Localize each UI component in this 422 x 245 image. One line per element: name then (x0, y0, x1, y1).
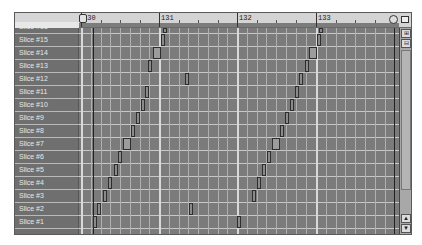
region-3a[interactable] (103, 190, 107, 202)
right-locator-icon[interactable] (389, 15, 398, 24)
region-5b[interactable] (262, 164, 266, 176)
region-2b[interactable] (189, 203, 193, 215)
region-8b[interactable] (280, 125, 284, 137)
scroll-down-button[interactable]: ▼ (401, 224, 411, 233)
track-label-10[interactable]: Slice #10 (15, 99, 79, 112)
track-label-5[interactable]: Slice #5 (15, 164, 79, 177)
track-label-3[interactable]: Slice #3 (15, 190, 79, 203)
region-1a[interactable] (93, 216, 97, 228)
ruler-label-133: 133 (318, 14, 331, 22)
track-label-13[interactable]: Slice #13 (15, 60, 79, 73)
region-7b[interactable] (272, 138, 280, 150)
region-5a[interactable] (114, 164, 118, 176)
region-9a[interactable] (136, 112, 140, 124)
region-12a[interactable] (185, 73, 189, 85)
region-7a[interactable] (123, 138, 131, 150)
scroll-up-button[interactable]: ▲ (401, 214, 411, 223)
ruler-label-132: 132 (239, 14, 252, 22)
track-label-14[interactable]: Slice #14 (15, 47, 79, 60)
track-label-16[interactable]: Slice #16 (15, 21, 79, 34)
arrange-grid[interactable] (79, 28, 399, 234)
region-14a[interactable] (153, 47, 161, 59)
window-toggle-icon (401, 16, 409, 23)
region-12b[interactable] (299, 73, 303, 85)
region-8a[interactable] (131, 125, 135, 137)
track-label-12[interactable]: Slice #12 (15, 73, 79, 86)
vertical-scrollbar[interactable]: ⊞ ⊟ ▲ ▼ (399, 28, 412, 234)
cycle-strip[interactable] (79, 23, 399, 27)
region-6b[interactable] (267, 151, 271, 163)
region-6a[interactable] (118, 151, 122, 163)
track-list: Slice #16 Slice #15 Slice #14 Slice #13 … (15, 28, 79, 234)
right-locator-line (394, 28, 395, 234)
region-15a[interactable] (161, 34, 165, 46)
region-16a[interactable] (163, 28, 167, 33)
track-label-4[interactable]: Slice #4 (15, 177, 79, 190)
region-11a[interactable] (145, 86, 149, 98)
region-15b[interactable] (317, 34, 321, 46)
scrollbar-thumb[interactable] (401, 50, 411, 190)
track-label-7[interactable]: Slice #7 (15, 138, 79, 151)
region-14b[interactable] (309, 47, 317, 59)
timeline-ruler[interactable]: 130 131 132 133 (79, 13, 399, 28)
zoom-in-icon[interactable]: ⊞ (401, 29, 411, 38)
left-locator-icon[interactable] (79, 14, 87, 23)
region-4b[interactable] (257, 177, 261, 189)
zoom-out-icon[interactable]: ⊟ (401, 39, 411, 48)
region-1b[interactable] (237, 216, 241, 228)
region-16b[interactable] (319, 28, 323, 33)
region-13a[interactable] (148, 60, 152, 72)
track-label-11[interactable]: Slice #11 (15, 86, 79, 99)
region-13b[interactable] (305, 60, 309, 72)
window-resize-button[interactable] (399, 13, 412, 28)
region-2a[interactable] (97, 203, 101, 215)
track-label-8[interactable]: Slice #8 (15, 125, 79, 138)
region-9b[interactable] (285, 112, 289, 124)
region-10b[interactable] (290, 99, 294, 111)
arrange-window: 130 131 132 133 Slice #16 Slice #15 Slic… (14, 12, 412, 235)
region-3b[interactable] (252, 190, 256, 202)
ruler-label-131: 131 (161, 14, 174, 22)
track-label-1[interactable]: Slice #1 (15, 216, 79, 229)
region-10a[interactable] (141, 99, 145, 111)
track-label-6[interactable]: Slice #6 (15, 151, 79, 164)
region-11b[interactable] (295, 86, 299, 98)
track-label-2[interactable]: Slice #2 (15, 203, 79, 216)
region-4a[interactable] (108, 177, 112, 189)
playhead-cursor[interactable] (93, 28, 94, 234)
track-label-15[interactable]: Slice #15 (15, 34, 79, 47)
track-label-9[interactable]: Slice #9 (15, 112, 79, 125)
